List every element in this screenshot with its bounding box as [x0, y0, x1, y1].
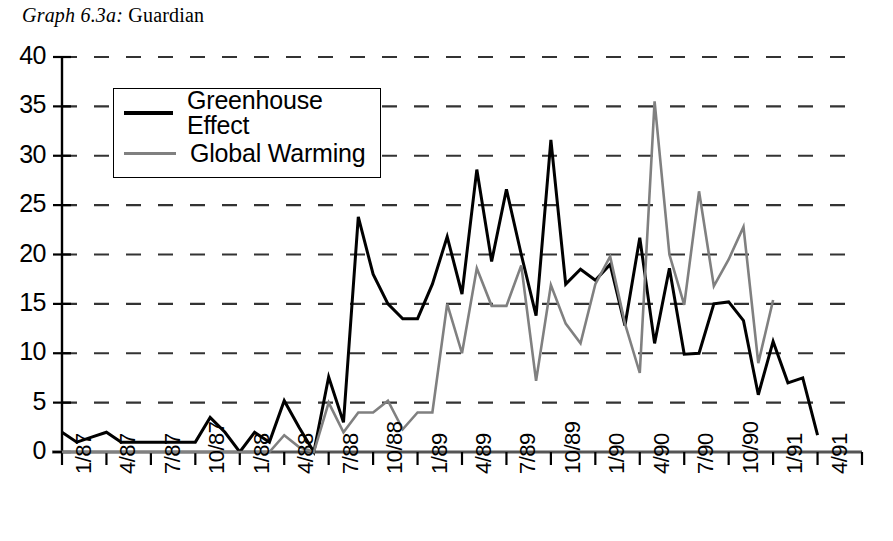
x-axis-tick-label: 7/88	[338, 433, 364, 474]
y-axis-tick-label: 30	[0, 140, 46, 169]
legend-swatch-global-warming	[124, 152, 176, 155]
x-axis-tick-label: 1/88	[249, 433, 275, 474]
x-axis-tick-label: 1/90	[604, 433, 630, 474]
x-axis-tick-label: 4/88	[293, 433, 319, 474]
y-axis-tick-label: 40	[0, 41, 46, 70]
x-axis-tick-label: 7/89	[515, 433, 541, 474]
y-axis-tick-label: 25	[0, 189, 46, 218]
y-axis-tick-label: 10	[0, 337, 46, 366]
chart-legend: Greenhouse Effect Global Warming	[113, 88, 381, 178]
x-axis-tick-label: 4/87	[115, 433, 141, 474]
y-axis-tick-label: 35	[0, 90, 46, 119]
series-line-greenhouse-effect	[62, 140, 818, 452]
x-axis-tick-label: 10/89	[560, 421, 586, 474]
y-axis-tick-label: 0	[0, 436, 46, 465]
x-axis-tick-label: 10/87	[204, 421, 230, 474]
x-axis-tick-label: 7/87	[160, 433, 186, 474]
x-axis-tick-label: 10/88	[382, 421, 408, 474]
x-axis-tick-label: 10/90	[738, 421, 764, 474]
legend-label-greenhouse-effect: Greenhouse Effect	[187, 88, 380, 138]
x-axis-tick-label: 4/89	[471, 433, 497, 474]
x-axis-tick-label: 4/90	[649, 433, 675, 474]
x-axis-tick-label: 1/87	[71, 433, 97, 474]
legend-label-global-warming: Global Warming	[190, 141, 366, 166]
x-axis-tick-label: 4/91	[827, 433, 853, 474]
x-axis-tick-label: 1/91	[782, 433, 808, 474]
legend-item-greenhouse-effect: Greenhouse Effect	[124, 93, 380, 133]
y-axis-tick-label: 5	[0, 387, 46, 416]
legend-swatch-greenhouse-effect	[124, 111, 173, 115]
y-axis-tick-label: 15	[0, 288, 46, 317]
y-axis-tick-label: 20	[0, 239, 46, 268]
x-axis-tick-label: 1/89	[427, 433, 453, 474]
legend-item-global-warming: Global Warming	[124, 133, 366, 173]
x-axis-tick-label: 7/90	[693, 433, 719, 474]
chart-page: Graph 6.3a: Guardian Greenhouse Effect G…	[0, 0, 893, 541]
